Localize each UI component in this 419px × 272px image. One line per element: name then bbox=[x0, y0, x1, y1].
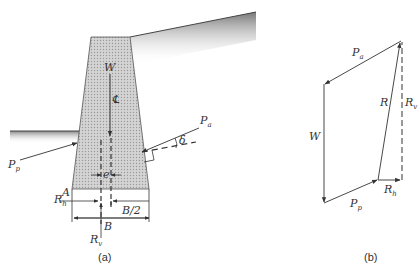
panel-a: W ℄ e Pa δ Pp A Rh B/2 B Rv (a) bbox=[7, 12, 256, 263]
b-rh-label: Rh bbox=[383, 183, 397, 198]
b-rv-label: Rv bbox=[404, 96, 417, 111]
weight-label: W bbox=[104, 61, 117, 74]
b-weight-label: W bbox=[309, 130, 322, 143]
passive-force-arrow bbox=[20, 143, 77, 160]
polygon-pa bbox=[325, 41, 401, 84]
rv-label: Rv bbox=[89, 233, 102, 248]
b-active-force-label: Pa bbox=[351, 46, 364, 61]
b-passive-force-label: Pp bbox=[349, 197, 362, 212]
half-base-label: B/2 bbox=[121, 204, 141, 217]
base-label: B bbox=[103, 220, 112, 233]
centerline-label: ℄ bbox=[112, 93, 120, 106]
delta-label: δ bbox=[179, 134, 186, 147]
active-force-label: Pa bbox=[199, 114, 212, 129]
caption-b: (b) bbox=[364, 251, 377, 263]
retaining-wall-diagram: W ℄ e Pa δ Pp A Rh B/2 B Rv (a) bbox=[0, 0, 419, 272]
passive-force-label: Pp bbox=[7, 158, 20, 173]
eccentricity-label: e bbox=[103, 168, 110, 181]
active-force-arrow bbox=[142, 128, 199, 152]
front-soil bbox=[10, 131, 80, 143]
panel-b: Pa W R Rv Rh Pp (b) bbox=[309, 41, 417, 263]
polygon-r bbox=[378, 43, 400, 180]
point-a-label: A bbox=[61, 186, 70, 199]
b-resultant-label: R bbox=[379, 96, 388, 109]
backfill-soil bbox=[130, 12, 256, 65]
caption-a: (a) bbox=[98, 251, 111, 263]
